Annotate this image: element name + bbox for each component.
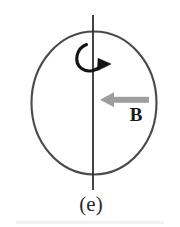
- rotation-arrow-head: [98, 58, 111, 70]
- magnetic-field-label: B: [124, 104, 148, 126]
- physics-figure-panel: B (e): [0, 0, 180, 227]
- scan-artifact-band: [16, 221, 164, 224]
- field-arrow-head: [100, 92, 114, 107]
- field-arrow-shaft: [114, 97, 150, 103]
- sphere-circle-outline: [32, 32, 157, 175]
- panel-label: (e): [60, 192, 122, 216]
